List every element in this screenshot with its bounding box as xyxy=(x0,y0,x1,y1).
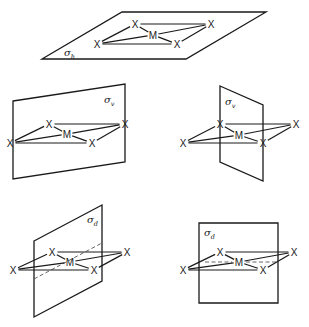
plane-label-sigma-v-1: σv xyxy=(104,94,115,108)
bond-M-X4 xyxy=(75,264,89,269)
ligand-atom-label: X xyxy=(122,119,129,130)
ligand-atom-label: X xyxy=(180,265,187,276)
ligand-atom-label: X xyxy=(124,247,131,258)
ligand-atom-label: X xyxy=(46,119,53,130)
ligand-atom-label: X xyxy=(91,265,98,276)
ligand-atom-label: X xyxy=(260,265,267,276)
plane-label-sigma-d-2: σd xyxy=(204,227,215,241)
plane-label-sigma-v-2: σv xyxy=(225,96,236,110)
central-atom-label: M xyxy=(149,30,157,41)
bond-X2-M xyxy=(57,255,65,260)
bond-X2-M xyxy=(225,255,234,260)
panel-sigma-d-1: XXMXXσd xyxy=(10,205,131,317)
central-atom-label: M xyxy=(235,130,243,141)
panel-sigma-d-2: XXMXXσd xyxy=(180,223,298,303)
panel-sigma-v-2: XXMXXσv xyxy=(180,86,300,181)
ligand-atom-label: X xyxy=(260,138,267,149)
symmetry-planes-diagram: XXMXXσhXXMXXσvXXMXXσvXXMXXσdXXMXXσd xyxy=(0,0,309,327)
bond-M-X4 xyxy=(158,37,172,42)
ligand-atom-label: X xyxy=(132,19,139,30)
bond-M-X4 xyxy=(244,264,258,269)
bond-X2-M xyxy=(54,127,62,132)
bond-M-X4 xyxy=(72,136,87,141)
bond-X1-M xyxy=(15,135,61,142)
bond-M-X3 xyxy=(158,25,205,34)
bond-X2-M xyxy=(225,127,234,132)
ligand-atom-label: X xyxy=(7,138,14,149)
panel-sigma-v-1: XXMXXσv xyxy=(7,84,129,179)
ligand-atom-label: X xyxy=(49,247,56,258)
bond-M-X3 xyxy=(244,125,290,134)
ligand-atom-label: X xyxy=(89,138,96,149)
plane-label-sigma-d-1: σd xyxy=(87,214,98,228)
central-atom-label: M xyxy=(63,129,71,140)
ligand-atom-label: X xyxy=(217,119,224,130)
bond-M-X3 xyxy=(75,253,121,261)
ligand-atom-label: X xyxy=(10,265,17,276)
ligand-atom-label: X xyxy=(293,119,300,130)
bond-M-X3 xyxy=(244,253,288,261)
ligand-atom-label: X xyxy=(94,39,101,50)
bond-X2-M xyxy=(140,27,149,32)
bond-M-X4 xyxy=(244,137,258,142)
ligand-atom-label: X xyxy=(208,19,215,30)
central-atom-label: M xyxy=(235,257,243,268)
panel-sigma-h: XXMXXσh xyxy=(42,12,266,61)
bond-M-X3 xyxy=(72,125,119,133)
diagram-canvas: XXMXXσhXXMXXσvXXMXXσvXXMXXσdXXMXXσd xyxy=(0,0,309,327)
ligand-atom-label: X xyxy=(217,247,224,258)
ligand-atom-label: X xyxy=(174,39,181,50)
ligand-atom-label: X xyxy=(180,138,187,149)
central-atom-label: M xyxy=(66,257,74,268)
ligand-atom-label: X xyxy=(291,247,298,258)
